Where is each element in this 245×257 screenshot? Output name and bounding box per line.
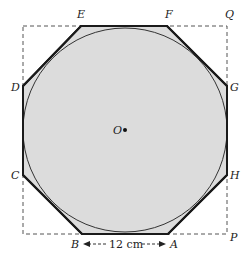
center-point-dot (123, 128, 127, 132)
label-Q: Q (225, 8, 234, 21)
label-A: A (169, 238, 178, 251)
arrow-left-icon (83, 241, 90, 247)
label-H: H (229, 169, 240, 182)
label-B: B (70, 238, 79, 251)
label-P: P (229, 231, 238, 244)
octagon-circle-diagram: O E F Q D G C H B A P 12 cm (0, 0, 245, 257)
label-O: O (113, 124, 122, 137)
label-G: G (230, 81, 239, 94)
label-C: C (11, 169, 20, 182)
label-D: D (10, 81, 20, 94)
measurement-label: 12 cm (109, 238, 144, 251)
label-F: F (164, 8, 173, 21)
label-E: E (76, 8, 85, 21)
arrow-right-icon (159, 241, 166, 247)
